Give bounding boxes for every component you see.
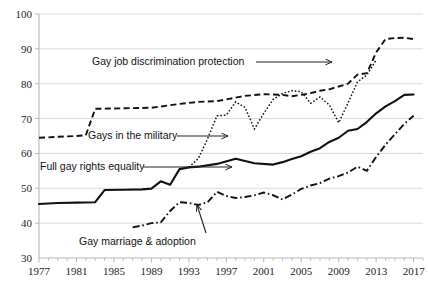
x-tick-label: 2005 [290,265,313,277]
y-tick-label: 100 [16,8,33,20]
y-tick-label: 30 [21,252,33,264]
gridlines-group [39,14,423,223]
ann-marriage-leader [197,205,206,233]
x-tick-label: 1981 [65,265,87,277]
y-tick-label: 70 [21,113,33,125]
series-line-gays-in-the-military [189,60,376,167]
x-tick-label: 1977 [28,265,51,277]
chart-canvas: 30405060708090100 1977198119851989199319… [0,0,428,293]
x-tickmarks-group [39,258,423,263]
x-tick-label: 2001 [253,265,275,277]
series-line-full-gay-rights-equality [39,95,414,204]
x-tick-label: 1989 [140,265,163,277]
annotation-leader-lines [143,62,332,233]
x-tick-label: 2009 [328,265,351,277]
y-tick-label: 40 [21,217,33,229]
y-tick-label: 60 [21,147,33,159]
line-chart: 30405060708090100 1977198119851989199319… [0,0,428,293]
series-line-gay-job-discrimination-protection [39,38,414,138]
x-tick-label: 1985 [103,265,126,277]
x-tick-label: 1993 [178,265,201,277]
x-tick-label: 2013 [365,265,388,277]
y-tick-label: 50 [21,182,33,194]
ann-military-label: Gays in the military [88,130,177,141]
ann-marriage-label: Gay marriage & adoption [79,236,196,247]
ann-job-discrimination-label: Gay job discrimination protection [92,56,244,67]
x-tick-label: 1997 [215,265,238,277]
y-tick-label: 90 [21,43,33,55]
y-axis-tick-labels: 30405060708090100 [16,8,40,264]
ann-full-rights-label: Full gay rights equality [40,161,144,172]
x-axis-tick-labels: 1977198119851989199319972001200520092013… [28,265,425,277]
x-tick-label: 2017 [403,265,426,277]
y-tick-label: 80 [21,78,33,90]
